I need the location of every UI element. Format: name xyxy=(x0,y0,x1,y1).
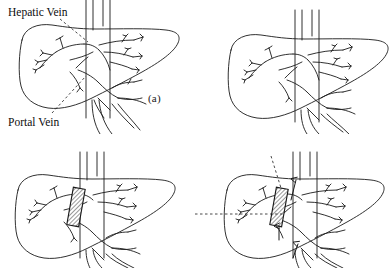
liver-outline xyxy=(224,175,384,259)
panel-a: Hepatic Vein Portal Vein (a) xyxy=(0,0,194,134)
vessel-confluence xyxy=(279,54,319,80)
portal-vein-system xyxy=(70,70,142,118)
panel-d: Hepatic Vein Portal Vein (d) xyxy=(195,134,389,268)
vessel-confluence xyxy=(70,44,110,70)
inferior-vessels xyxy=(86,248,140,268)
leader-line-portal-a xyxy=(52,76,86,113)
leader-line-hepatic-d xyxy=(271,156,281,188)
stent-shunt-c xyxy=(67,187,85,227)
portal-vein-system xyxy=(279,80,351,120)
flow-arrow-upper xyxy=(291,180,296,200)
liver-outline xyxy=(228,35,388,119)
figure-root: Hepatic Vein Portal Vein (a) xyxy=(0,0,389,268)
inferior-vessels xyxy=(92,98,146,134)
label-portal-vein-a: Portal Vein xyxy=(8,116,59,129)
panel-b: (b) xyxy=(195,0,389,134)
panel-c: (c) xyxy=(0,134,194,268)
vena-cava-lines xyxy=(86,0,110,118)
stent-shunt-d xyxy=(270,187,288,227)
inferior-vessels xyxy=(301,108,355,134)
hepatic-vein-branches-right xyxy=(93,184,137,223)
hepatic-vein-branches-right xyxy=(308,44,352,83)
liver-outline xyxy=(15,175,175,259)
label-hepatic-vein-a: Hepatic Vein xyxy=(8,6,68,19)
panel-letter-a: (a) xyxy=(148,92,161,104)
vena-cava-lines xyxy=(293,152,317,258)
hepatic-vein-branches-right xyxy=(302,184,346,223)
leader-line-hepatic-a xyxy=(60,19,88,42)
hepatic-vein-branches-right xyxy=(99,34,143,73)
inferior-vessels xyxy=(295,248,349,268)
